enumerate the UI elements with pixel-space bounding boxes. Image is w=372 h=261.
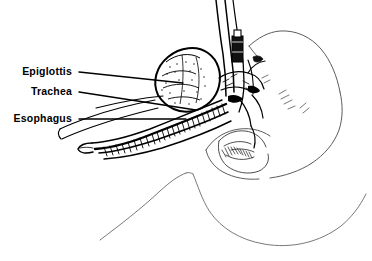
- tube-connector: [232, 30, 243, 62]
- pharynx-shading: [223, 74, 252, 91]
- illustration-figure: Epiglottis Trachea Esophagus: [0, 0, 372, 261]
- label-trachea: Trachea: [31, 85, 72, 97]
- nose-detail: [253, 56, 263, 62]
- shoulder-chest-contour: [100, 173, 366, 246]
- label-esophagus: Esophagus: [14, 112, 72, 124]
- cheek-hatch: [262, 75, 309, 113]
- illustration-canvas: Epiglottis Trachea Esophagus: [0, 0, 372, 261]
- label-epiglottis: Epiglottis: [22, 65, 72, 77]
- jaw-and-mouth: [218, 131, 268, 173]
- tongue-mass: [155, 48, 220, 112]
